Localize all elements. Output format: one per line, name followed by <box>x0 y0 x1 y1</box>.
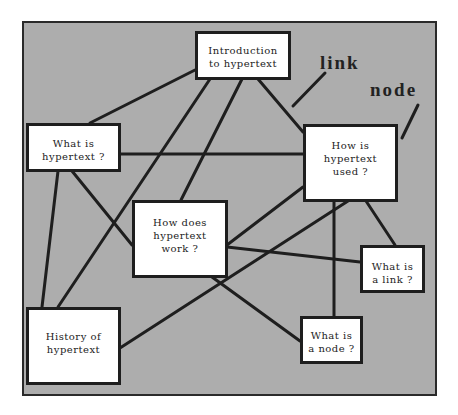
edge-how-work-what-node <box>212 277 300 341</box>
edge-how-used-what-link <box>366 201 395 245</box>
node-history-of-hypertext: History of hypertext <box>26 307 121 385</box>
node-pointer <box>402 105 418 138</box>
edge-intro-how-work <box>181 79 242 200</box>
edge-what-is-history <box>42 171 58 307</box>
node-introduction: Introduction to hypertext <box>195 31 291 80</box>
node-what-is-hypertext: What is hypertext ? <box>26 123 121 172</box>
node-what-is-a-node: What is a node ? <box>300 316 363 364</box>
node-annotation: node <box>370 79 417 101</box>
edge-how-work-what-link <box>227 247 360 262</box>
node-how-does-hypertext-work: How does hypertext work ? <box>132 200 228 278</box>
edge-intro-how-used <box>258 79 303 132</box>
node-how-is-hypertext-used: How is hypertext used ? <box>303 124 398 202</box>
edge-intro-what-is <box>90 70 195 123</box>
node-history-of-hypertext-text: History of hypertext <box>46 330 101 382</box>
node-how-does-hypertext-work-text: How does hypertext work ? <box>153 216 207 275</box>
link-pointer <box>293 73 325 106</box>
node-what-is-hypertext-text: What is hypertext ? <box>42 137 105 169</box>
node-what-is-a-link: What is a link ? <box>360 245 425 293</box>
node-how-is-hypertext-used-text: How is hypertext used ? <box>324 139 377 199</box>
node-introduction-text: Introduction to hypertext <box>208 44 277 77</box>
node-what-is-a-node-text: What is a node ? <box>308 329 354 361</box>
node-what-is-a-link-text: What is a link ? <box>372 260 414 290</box>
link-annotation: link <box>320 52 360 74</box>
